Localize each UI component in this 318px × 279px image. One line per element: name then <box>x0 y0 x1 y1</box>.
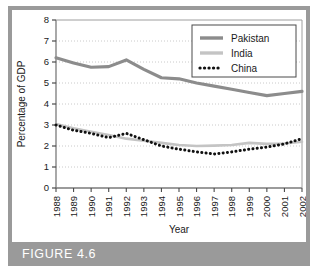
x-tick-label: 1997 <box>209 196 220 217</box>
x-tick-label: 1991 <box>103 196 114 217</box>
x-tick-label: 1990 <box>86 196 97 217</box>
x-tick-label: 1989 <box>68 196 79 217</box>
y-tick-label: 1 <box>44 161 49 172</box>
x-tick-label: 1995 <box>174 196 185 217</box>
y-tick-label: 6 <box>44 56 49 67</box>
y-tick-label: 2 <box>44 140 49 151</box>
chart-legend[interactable]: PakistanIndiaChina <box>192 25 296 77</box>
legend-label-india: India <box>231 48 253 59</box>
x-tick-label: 1993 <box>138 196 149 217</box>
x-tick-label: 2001 <box>279 196 290 217</box>
line-chart: 012345678 198819891990199119921993199419… <box>12 10 306 240</box>
x-tick-label: 2000 <box>261 196 272 217</box>
x-tick-label: 1999 <box>244 196 255 217</box>
figure-container: 012345678 198819891990199119921993199419… <box>0 0 318 279</box>
x-tick-label: 1988 <box>51 196 62 217</box>
y-tick-label: 5 <box>44 77 49 88</box>
y-tick-label: 7 <box>44 35 49 46</box>
x-tick-label: 2002 <box>297 196 306 217</box>
series-line-china <box>56 125 302 154</box>
x-axis-title: Year <box>169 224 190 235</box>
legend-label-pakistan: Pakistan <box>231 33 269 44</box>
y-tick-label: 8 <box>44 14 49 25</box>
x-tick-label: 1998 <box>226 196 237 217</box>
y-tick-label: 0 <box>44 182 49 193</box>
y-tick-label: 4 <box>44 98 49 109</box>
x-tick-label: 1994 <box>156 196 167 217</box>
y-axis-title: Percentage of GDP <box>16 60 27 147</box>
x-tick-label: 1992 <box>121 196 132 217</box>
figure-caption-label: FIGURE 4.6 <box>22 247 96 261</box>
y-axis-tick-labels: 012345678 <box>44 14 49 193</box>
y-tick-label: 3 <box>44 119 49 130</box>
legend-label-china: China <box>231 63 258 74</box>
x-axis-tick-labels: 1988198919901991199219931994199519961997… <box>51 196 306 217</box>
x-tick-label: 1996 <box>191 196 202 217</box>
